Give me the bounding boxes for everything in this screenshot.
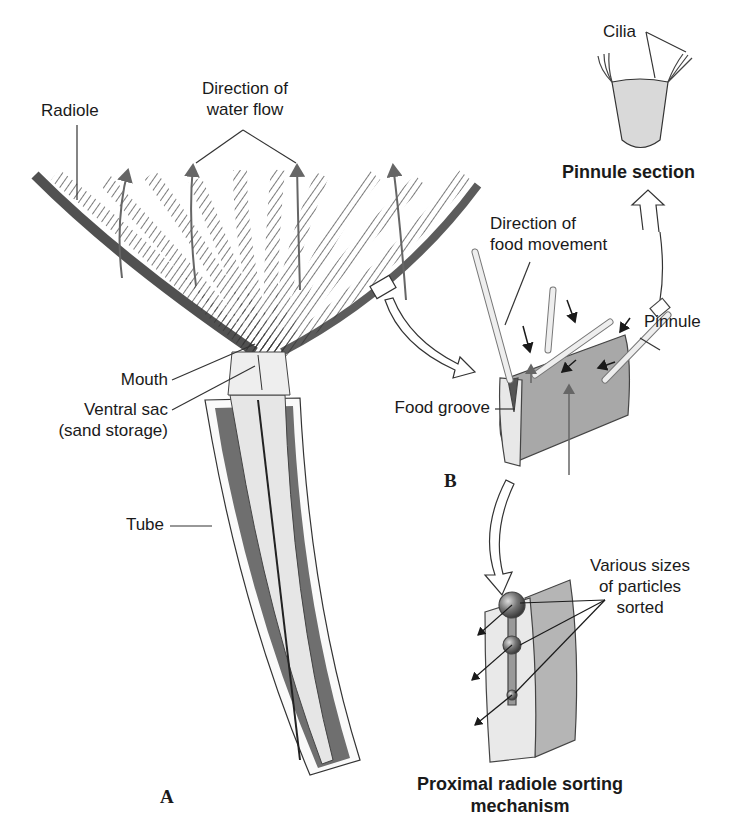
worm-collar — [228, 352, 290, 395]
fanworm-feeding-diagram: Radiole Direction of water flow Mouth Ve… — [0, 0, 738, 830]
water-flow-label-line2: water flow — [190, 100, 300, 120]
particles-label-line1: Various sizes — [580, 556, 700, 576]
food-groove-label: Food groove — [355, 398, 490, 418]
mouth-label: Mouth — [60, 370, 168, 390]
panel-a-label: A — [160, 786, 174, 808]
sorting-title-line1: Proximal radiole sorting — [395, 774, 645, 794]
pinnule-section-leader — [660, 232, 663, 300]
tube-label: Tube — [80, 515, 164, 535]
food-movement-label-line1: Direction of — [490, 214, 576, 234]
radiole-label: Radiole — [41, 101, 99, 121]
pinnule-label: Pinnule — [644, 312, 701, 332]
water-flow-label-line1: Direction of — [190, 79, 300, 99]
sorting-mechanism-illustration — [485, 580, 577, 762]
radiole-crown — [35, 170, 478, 352]
worm-tube — [205, 395, 360, 775]
panel-b-label: B — [444, 470, 457, 492]
ventral-sac-label-line1: Ventral sac — [20, 400, 168, 420]
detail-callout-arrow — [370, 275, 475, 378]
radiole-segment-b — [475, 252, 670, 466]
down-callout-arrow — [485, 480, 514, 595]
pinnule-section-title: Pinnule section — [562, 162, 695, 182]
particles-label-line3: sorted — [580, 598, 700, 618]
ventral-sac-label-line2: (sand storage) — [20, 421, 168, 441]
cilia-label: Cilia — [603, 22, 636, 42]
food-movement-label-line2: food movement — [490, 235, 607, 255]
sorting-title-line2: mechanism — [395, 796, 645, 816]
particles-label-line2: of particles — [580, 577, 700, 597]
pinnule-section-illustration — [598, 32, 692, 232]
